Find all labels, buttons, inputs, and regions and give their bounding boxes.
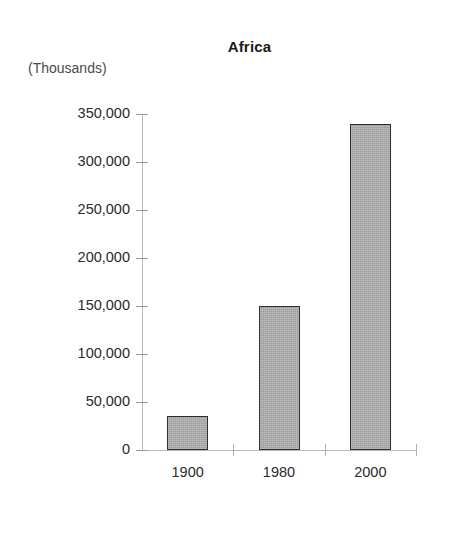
x-tick-mark	[325, 444, 326, 456]
x-tick-label: 1900	[143, 464, 233, 480]
y-tick-label: 350,000	[30, 105, 130, 121]
x-tick-label: 2000	[325, 464, 415, 480]
y-tick-label: 300,000	[30, 153, 130, 169]
y-tick-mark	[136, 306, 148, 307]
y-tick-label: 200,000	[30, 249, 130, 265]
y-tick-label: 250,000	[30, 201, 130, 217]
y-tick-mark	[136, 162, 148, 163]
x-tick-mark	[233, 444, 234, 456]
bar-chart: Africa (Thousands) 350,000300,000250,000…	[0, 0, 457, 533]
y-axis-line	[142, 114, 143, 451]
bar	[350, 124, 391, 450]
y-tick-label: 100,000	[30, 345, 130, 361]
y-tick-mark	[136, 210, 148, 211]
y-tick-label: 0	[30, 441, 130, 457]
y-tick-mark	[136, 354, 148, 355]
y-tick-mark	[136, 450, 148, 451]
y-tick-label: 150,000	[30, 297, 130, 313]
bar	[259, 306, 300, 450]
x-tick-mark	[416, 444, 417, 456]
plot-area: 350,000300,000250,000200,000150,000100,0…	[0, 0, 457, 533]
y-tick-mark	[136, 402, 148, 403]
x-axis-line	[142, 450, 416, 451]
x-tick-label: 1980	[234, 464, 324, 480]
y-tick-mark	[136, 258, 148, 259]
bar	[167, 416, 208, 450]
y-tick-mark	[136, 114, 148, 115]
y-tick-label: 50,000	[30, 393, 130, 409]
